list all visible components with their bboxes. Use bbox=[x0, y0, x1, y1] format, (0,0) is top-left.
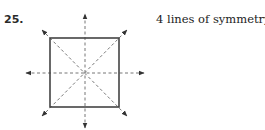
symmetry-axes bbox=[26, 14, 144, 128]
answer-text: 4 lines of symmetry bbox=[156, 12, 265, 26]
